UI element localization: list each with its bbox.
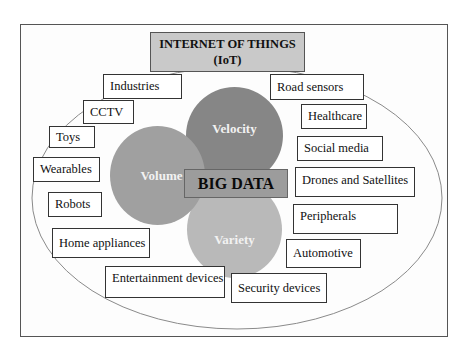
device-box-robots: Robots xyxy=(48,192,102,217)
device-box-drones-and-satellites: Drones and Satellites xyxy=(295,167,415,197)
velocity-label: Velocity xyxy=(212,121,256,137)
device-label: Peripherals xyxy=(300,210,356,223)
device-box-security-devices: Security devices xyxy=(231,273,327,303)
big-data-label: BIG DATA xyxy=(198,175,274,193)
device-box-social-media: Social media xyxy=(297,136,383,161)
device-box-peripherals: Peripherals xyxy=(293,204,398,234)
device-label: Entertainment devices xyxy=(112,272,223,285)
device-box-industries: Industries xyxy=(103,74,182,99)
volume-label: Volume xyxy=(140,168,182,184)
device-label: Healthcare xyxy=(308,110,362,123)
device-box-toys: Toys xyxy=(49,126,95,148)
big-data-box: BIG DATA xyxy=(184,169,288,198)
variety-label: Variety xyxy=(214,232,255,248)
device-box-home-appliances: Home appliances xyxy=(52,228,150,258)
iot-title-box: INTERNET OF THINGS (IoT) xyxy=(150,32,305,72)
device-label: CCTV xyxy=(90,106,123,119)
device-box-wearables: Wearables xyxy=(33,157,100,182)
device-box-entertainment-devices: Entertainment devices xyxy=(105,266,225,298)
iot-title-line1: INTERNET OF THINGS xyxy=(151,36,304,52)
device-label: Toys xyxy=(56,131,80,144)
device-label: Robots xyxy=(55,198,90,211)
device-label: Drones and Satellites xyxy=(302,174,408,187)
device-label: Wearables xyxy=(40,163,92,176)
device-label: Security devices xyxy=(238,282,320,295)
device-box-automotive: Automotive xyxy=(286,239,361,268)
device-box-road-sensors: Road sensors xyxy=(270,74,364,100)
device-label: Industries xyxy=(110,80,159,93)
iot-title-line2: (IoT) xyxy=(151,52,304,68)
device-box-cctv: CCTV xyxy=(83,100,134,124)
device-label: Automotive xyxy=(293,247,353,260)
device-label: Home appliances xyxy=(59,237,145,250)
device-label: Road sensors xyxy=(277,81,343,94)
device-box-healthcare: Healthcare xyxy=(301,104,367,129)
device-label: Social media xyxy=(304,142,369,155)
